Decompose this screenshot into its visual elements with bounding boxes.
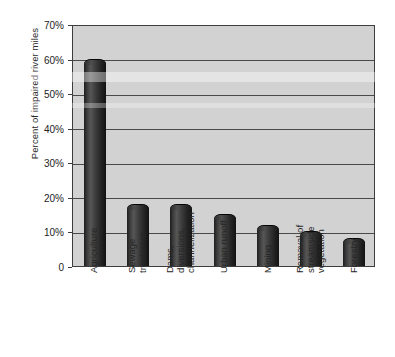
x-tick-label: Sewagetreatment xyxy=(127,233,148,273)
y-tick-mark xyxy=(68,25,72,26)
y-tick-mark xyxy=(68,232,72,233)
x-tick-label-line: Mining xyxy=(263,245,274,273)
y-tick-label: 30% xyxy=(44,158,68,169)
y-axis-title: Percent of impaired river miles xyxy=(29,0,40,201)
y-tick-mark xyxy=(68,129,72,130)
bar-chart-figure: Percent of impaired river miles 70%60%50… xyxy=(0,0,395,357)
x-tick-label-line: Urban runoff xyxy=(219,220,230,273)
y-tick-mark xyxy=(68,94,72,95)
x-tick-label: Urban runoff xyxy=(219,220,230,273)
y-tick-mark xyxy=(68,163,72,164)
x-tick-label-line: Agriculture xyxy=(89,228,100,273)
y-tick-label: 70% xyxy=(44,20,68,31)
y-tick-label: 40% xyxy=(44,123,68,134)
gridline xyxy=(73,60,374,61)
y-tick-mark xyxy=(68,267,72,268)
x-tick-label-line: vegetation xyxy=(316,225,327,273)
x-tick-label: Forestry xyxy=(349,238,360,273)
gridline xyxy=(73,129,374,130)
x-tick-label: Dams,diversions,channelization xyxy=(165,212,197,273)
y-tick-label: 60% xyxy=(44,54,68,65)
x-tick-label: Mining xyxy=(263,245,274,273)
y-tick-label: 10% xyxy=(44,227,68,238)
y-tick-label: 0 xyxy=(58,262,68,273)
x-tick-label: Agriculture xyxy=(89,228,100,273)
gridline xyxy=(73,164,374,165)
x-tick-label-line: treatment xyxy=(138,233,149,273)
x-tick-label: Removal ofstreamsidevegetation xyxy=(295,225,327,273)
x-tick-label-line: Forestry xyxy=(349,238,360,273)
y-tick-mark xyxy=(68,60,72,61)
gridline xyxy=(73,198,374,199)
y-tick-label: 20% xyxy=(44,192,68,203)
y-tick-label: 50% xyxy=(44,89,68,100)
gridline xyxy=(73,95,374,96)
x-tick-label-line: channelization xyxy=(186,212,197,273)
y-tick-mark xyxy=(68,198,72,199)
